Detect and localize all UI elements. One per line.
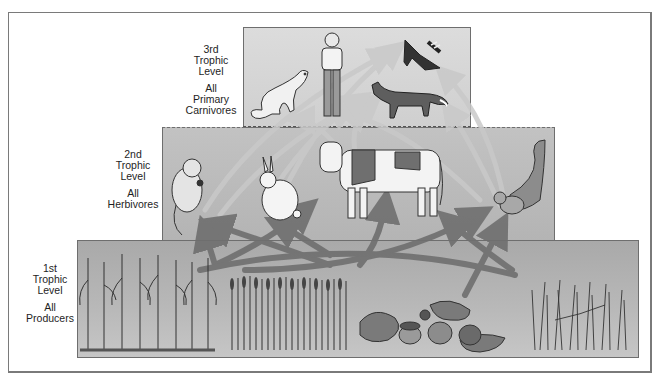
second-level-level-word: Level [104, 171, 162, 182]
corn-illustration [80, 254, 217, 350]
third-level-group-carnivores: Carnivores [180, 105, 242, 116]
raccoon-illustration [404, 40, 440, 70]
acorns-and-oak-leaves-illustration [360, 301, 505, 352]
mouse-illustration [172, 159, 203, 235]
energy-arrows-to-herbivores [200, 205, 515, 295]
first-level-level-word: Level [22, 285, 78, 296]
second-level-group-herbivores: Herbivores [104, 199, 162, 210]
fox-illustration [372, 82, 448, 118]
second-trophic-level-label: 2nd Trophic Level All Herbivores [104, 149, 162, 210]
first-trophic-level-label: 1st Trophic Level All Producers [22, 263, 78, 324]
grasses-illustration [532, 280, 626, 350]
pyramid-illustration [0, 0, 658, 377]
cow-illustration [320, 142, 443, 218]
third-level-level-word: Level [180, 66, 242, 77]
squirrel-illustration [494, 140, 545, 214]
human-illustration [322, 33, 342, 116]
wheat-illustration [230, 276, 346, 350]
third-trophic-level-label: 3rd Trophic Level All Primary Carnivores [180, 44, 242, 116]
first-level-group-producers: Producers [22, 313, 78, 324]
